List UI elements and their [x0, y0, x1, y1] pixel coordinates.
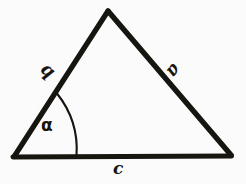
side-c-line [13, 156, 232, 157]
angle-alpha-label: α [41, 117, 53, 134]
side-b-line [15, 11, 109, 156]
triangle-drawing [0, 0, 246, 184]
angle-arc [57, 94, 77, 157]
triangle-figure: b a c α [0, 0, 246, 184]
side-c-label: c [113, 160, 123, 177]
side-a-line [108, 11, 231, 155]
